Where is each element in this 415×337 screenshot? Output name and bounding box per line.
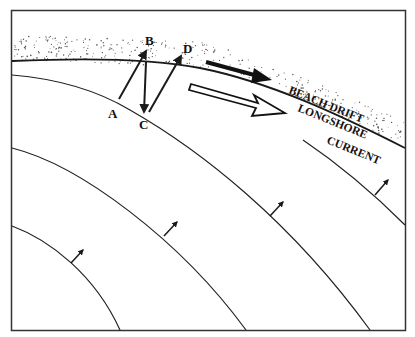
- wave-arrow-icon: [270, 202, 283, 216]
- wave-arrow-icon: [164, 222, 177, 236]
- point-label-A: A: [108, 106, 118, 121]
- longshore-current-label-line2: CURRENT: [325, 134, 383, 167]
- swash-arrow-A-B: [119, 51, 146, 99]
- point-label-C: C: [139, 117, 148, 132]
- wave-arrow-icon: [375, 180, 388, 195]
- beach-drift-arrow-icon: [206, 62, 272, 83]
- swash-arrow-C-D: [149, 56, 181, 112]
- backwash-arrow-B-C: [144, 62, 146, 112]
- wave-crest-2: [12, 148, 246, 330]
- wave-crest-3: [12, 226, 120, 330]
- point-label-B: B: [145, 33, 154, 48]
- wave-arrow-icon: [71, 250, 83, 263]
- shoreline: [12, 59, 405, 148]
- coastal-diagram: A B C D BEACH DRIFT LONGSHORE CURRENT: [0, 0, 415, 337]
- point-label-D: D: [183, 41, 192, 56]
